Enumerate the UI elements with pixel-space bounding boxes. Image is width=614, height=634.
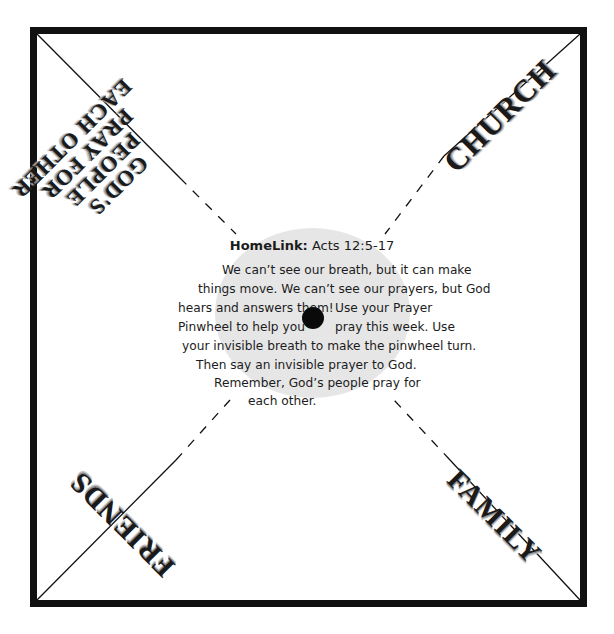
- body-line: Remember, God’s people pray for: [214, 376, 421, 390]
- homelink-label: HomeLink:: [230, 238, 308, 253]
- scripture-reference: Acts 12:5-17: [312, 238, 394, 253]
- body-line: things move. We can’t see our prayers, b…: [198, 282, 491, 296]
- body-line: Then say an invisible prayer to God.: [196, 358, 417, 372]
- homelink-title: HomeLink: Acts 12:5-17: [180, 238, 444, 253]
- body-line: Pinwheel to help you: [178, 320, 305, 334]
- body-line: each other.: [248, 394, 317, 408]
- dashed-line-bottom-left: [176, 400, 230, 460]
- dashed-line-top-left: [180, 178, 236, 234]
- body-line: Use your Prayer: [335, 301, 432, 315]
- pin-hole-dot: [302, 307, 324, 329]
- body-line: We can’t see our breath, but it can make: [222, 263, 472, 277]
- dashed-line-bottom-right: [394, 400, 450, 460]
- body-line: pray this week. Use: [335, 320, 455, 334]
- body-line: your invisible breath to make the pinwhe…: [182, 339, 476, 353]
- dashed-line-top-right: [385, 156, 444, 234]
